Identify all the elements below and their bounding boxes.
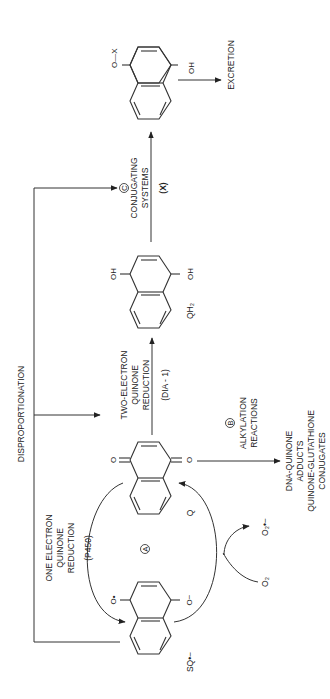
conj-bottom-atom: OH (187, 62, 196, 74)
conjugating-systems-label-1: CONJUGATING (129, 157, 139, 218)
conjugating-agent-label: (X) (158, 182, 168, 194)
conj-top-atom: O—X (110, 48, 119, 68)
hydroquinone-structure (120, 256, 180, 328)
conjugated-product-structure (122, 47, 178, 119)
pathway-a-marker: A (141, 545, 150, 554)
two-electron-label-3: REDUCTION (141, 360, 151, 411)
sq-top-atom: O• (109, 595, 118, 604)
quinone-metabolism-diagram: DISPROPORTIONATION O—X OH EXCRETION C CO… (0, 0, 330, 699)
q-top-atom: O (109, 457, 118, 463)
svg-text:A: A (141, 546, 150, 552)
svg-text:C: C (120, 185, 129, 191)
hydroquinone-label: QH₂ (185, 303, 195, 319)
semiquinone-label: SQ•− (185, 652, 195, 672)
oxygen-to-superoxide-arc (223, 526, 258, 582)
q-bottom-atom: O (185, 457, 194, 463)
products-b-line-3: QUINONE-GLUTATHIONE (306, 410, 316, 512)
products-b-line-4: CONJUGATES (317, 432, 327, 490)
quinone-label: Q (185, 509, 195, 516)
reoxidation-arc (174, 483, 217, 622)
p450-enzyme-label: (P450) (83, 535, 93, 561)
products-b-line-2: ADDUCTS (295, 440, 305, 481)
oxygen-label: O₂ (260, 577, 270, 587)
qh2-bottom-atom: OH (186, 268, 195, 280)
semiquinone-structure (120, 582, 180, 654)
products-b-line-1: DNA-QUINONE (284, 430, 294, 491)
one-electron-label-2: QUINONE (55, 528, 65, 568)
two-electron-label-2: QUINONE (130, 365, 140, 405)
qh2-top-atom: OH (109, 268, 118, 280)
sq-bottom-atom: O− (185, 594, 194, 605)
one-electron-label-1: ONE ELECTRON (44, 514, 54, 581)
alkylation-label-2: REACTIONS (249, 398, 259, 448)
pathway-c-marker: C (120, 184, 129, 193)
alkylation-label-1: ALKYLATION (238, 397, 248, 449)
excretion-label: EXCRETION (226, 40, 236, 90)
conjugating-systems-label-2: SYSTEMS (140, 167, 150, 208)
svg-text:B: B (226, 420, 235, 425)
two-electron-label-1: TWO-ELECTRON (119, 351, 129, 420)
pathway-b-marker: B (226, 419, 235, 428)
disproportionation-label: DISPROPORTIONATION (16, 366, 26, 463)
superoxide-label: O₂•− (260, 518, 270, 536)
quinone-structure (119, 442, 182, 514)
dia1-enzyme-label: (DIA - 1) (160, 369, 170, 401)
one-electron-label-3: REDUCTION (66, 523, 76, 574)
